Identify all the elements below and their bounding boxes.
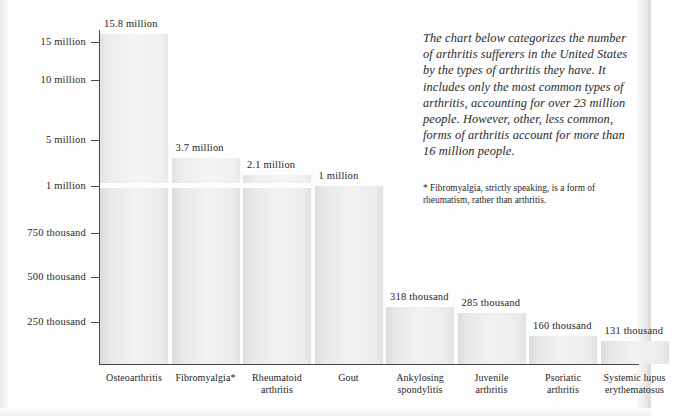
bar[interactable] [529, 336, 598, 364]
y-axis-tick [91, 42, 99, 43]
chart-footnote: * Fibromyalgia, strictly speaking, is a … [423, 182, 628, 207]
x-axis-category-label: Rheumatoidarthritis [237, 372, 317, 396]
x-axis-category-label-line: Systemic lupus [595, 372, 674, 384]
x-axis-category-label: Systemic lupuserythematosus [595, 372, 674, 396]
bar-value-label: 15.8 million [104, 18, 158, 30]
y-axis-tick [91, 140, 99, 141]
x-axis-category-label: Juvenilearthritis [452, 372, 532, 396]
x-axis-category-label-line: arthritis [237, 384, 317, 396]
x-axis-category-label: Gout [309, 372, 389, 384]
y-axis-tick-label: 1 million [0, 180, 86, 191]
bar-value-label: 318 thousand [390, 291, 449, 303]
x-axis-category-label: Ankylosingspondylitis [380, 372, 460, 396]
y-axis-tick [91, 186, 99, 187]
bar-segment-lower[interactable] [243, 188, 312, 364]
x-axis-category-label: Psoriaticarthritis [523, 372, 603, 396]
x-axis-category-label: Fibromyalgia* [166, 372, 246, 384]
y-axis-tick [91, 277, 99, 278]
bar-value-label: 2.1 million [247, 159, 295, 171]
y-axis-tick-label: 750 thousand [0, 227, 86, 238]
y-axis-tick-label: 500 thousand [0, 271, 86, 282]
bar-value-label: 285 thousand [462, 297, 521, 309]
x-axis-category-label-line: arthritis [452, 384, 532, 396]
y-axis-tick-label: 15 million [0, 36, 86, 47]
x-axis-category-label-line: spondylitis [380, 384, 460, 396]
x-axis-category-label: Osteoarthritis [94, 372, 174, 384]
bar[interactable] [601, 341, 670, 364]
y-axis-tick-label: 5 million [0, 134, 86, 145]
chart-description-text: The chart below categorizes the number o… [423, 30, 635, 160]
bar-segment-upper[interactable] [243, 175, 312, 183]
bar[interactable] [315, 186, 384, 364]
y-axis-tick-label: 250 thousand [0, 316, 86, 327]
y-axis-tick-label: 10 million [0, 74, 86, 85]
x-axis-category-label-line: erythematosus [595, 384, 674, 396]
x-axis-category-label-line: Juvenile [452, 372, 532, 384]
bar-segment-lower[interactable] [100, 188, 169, 364]
bar[interactable] [386, 307, 455, 364]
y-axis-tick [91, 322, 99, 323]
x-axis-category-label-line: Osteoarthritis [94, 372, 174, 384]
bar-segment-lower[interactable] [172, 188, 241, 364]
bar-value-label: 1 million [319, 170, 359, 182]
x-axis-category-label-line: Gout [309, 372, 389, 384]
x-axis-category-label-line: Psoriatic [523, 372, 603, 384]
x-axis-category-label-line: Rheumatoid [237, 372, 317, 384]
bar-value-label: 160 thousand [533, 320, 592, 332]
bar-value-label: 131 thousand [605, 325, 664, 337]
bar-segment-upper[interactable] [172, 158, 241, 183]
x-axis-category-label-line: Fibromyalgia* [166, 372, 246, 384]
x-axis-category-label-line: Ankylosing [380, 372, 460, 384]
y-axis-tick [91, 80, 99, 81]
x-axis-category-label-line: arthritis [523, 384, 603, 396]
x-axis-line [99, 364, 639, 365]
y-axis-tick [91, 233, 99, 234]
bar-segment-upper[interactable] [100, 34, 169, 183]
bar-value-label: 3.7 million [176, 142, 224, 154]
bar[interactable] [458, 313, 527, 364]
